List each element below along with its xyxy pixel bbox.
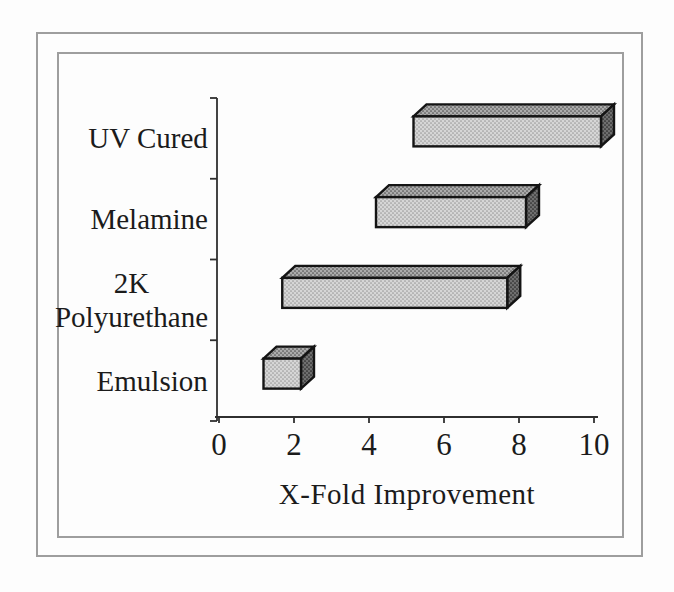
category-label: Emulsion [97, 365, 209, 397]
bar-front-face [414, 116, 602, 146]
category-label: Melamine [90, 203, 208, 235]
bar-top-face [376, 185, 539, 197]
x-tick-label: 6 [436, 427, 452, 462]
category-label: 2K [114, 267, 150, 299]
category-label: Polyurethane [55, 301, 208, 333]
x-axis-title: X-Fold Improvement [219, 478, 595, 511]
bar-top-face [282, 266, 520, 278]
figure-canvas: 0246810UV CuredMelamine2KPolyurethaneEmu… [0, 0, 674, 592]
x-tick-label: 8 [511, 427, 527, 462]
bar-front-face [282, 278, 507, 308]
bar-2k-polyurethane [282, 266, 520, 308]
category-label: UV Cured [88, 122, 208, 154]
bar-front-face [376, 197, 526, 227]
x-tick-label: 10 [579, 427, 610, 462]
bar-front-face [264, 359, 302, 389]
bar-top-face [414, 104, 615, 116]
x-tick-label: 2 [286, 427, 302, 462]
bar-emulsion [264, 347, 315, 389]
bar-melamine [376, 185, 539, 227]
x-tick-label: 4 [361, 427, 377, 462]
bar-uv-cured [414, 104, 615, 146]
x-tick-label: 0 [211, 427, 227, 462]
